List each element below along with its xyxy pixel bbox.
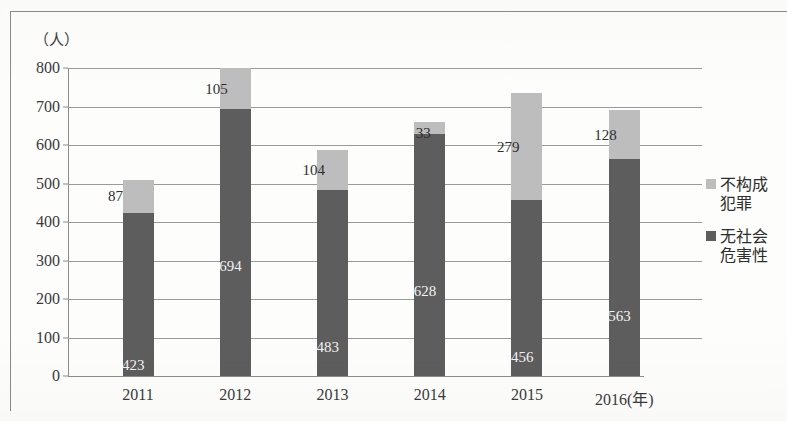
x-tick-label: 2013 bbox=[316, 386, 348, 404]
bar-segment-dark[interactable] bbox=[123, 213, 154, 376]
gridline bbox=[68, 338, 702, 339]
bar-segment-light[interactable] bbox=[123, 180, 154, 213]
legend-swatch-icon bbox=[706, 231, 716, 241]
x-tick-label: 2014 bbox=[414, 386, 446, 404]
bar-column[interactable] bbox=[220, 68, 251, 376]
bar-value-label-light: 87 bbox=[108, 189, 123, 204]
gridline bbox=[68, 107, 702, 108]
gridline bbox=[68, 145, 702, 146]
x-tick-label: 2015 bbox=[511, 386, 543, 404]
bar-column[interactable] bbox=[123, 180, 154, 376]
gridline bbox=[68, 222, 702, 223]
y-tick-label: 700 bbox=[8, 98, 60, 116]
gridline bbox=[68, 376, 644, 377]
legend-entry[interactable]: 不构成犯罪 bbox=[706, 176, 784, 214]
bar-value-label-dark: 483 bbox=[316, 340, 339, 355]
legend-label-line2: 危害性 bbox=[720, 247, 784, 266]
y-tick-label: 0 bbox=[8, 367, 60, 385]
bar-value-label-light: 105 bbox=[205, 82, 228, 97]
bar-value-label-light: 33 bbox=[416, 126, 431, 141]
y-tick-label: 200 bbox=[8, 290, 60, 308]
chart-legend: 不构成犯罪无社会危害性 bbox=[706, 176, 784, 280]
bar-value-label-dark: 694 bbox=[219, 259, 242, 274]
y-tick-label: 300 bbox=[8, 252, 60, 270]
legend-label: 不构成 bbox=[720, 176, 768, 193]
bar-column[interactable] bbox=[511, 93, 542, 376]
gridline bbox=[68, 261, 702, 262]
plot-area: 4238769410548310462833456279563128 bbox=[68, 68, 702, 376]
bar-value-label-dark: 456 bbox=[511, 350, 534, 365]
gridline bbox=[68, 68, 702, 69]
chart-screenshot: （人） 0100200300400500600700800 4238769410… bbox=[0, 0, 787, 421]
bar-value-label-light: 128 bbox=[594, 128, 617, 143]
bar-value-label-dark: 563 bbox=[608, 309, 631, 324]
y-tick-label: 600 bbox=[8, 136, 60, 154]
y-tick-label: 400 bbox=[8, 213, 60, 231]
legend-label-line2: 犯罪 bbox=[720, 195, 784, 214]
legend-swatch-icon bbox=[706, 179, 716, 189]
y-tick-label: 800 bbox=[8, 59, 60, 77]
bar-segment-dark[interactable] bbox=[220, 109, 251, 376]
bar-value-label-light: 104 bbox=[302, 163, 325, 178]
bar-segment-dark[interactable] bbox=[609, 159, 640, 376]
x-tick-label: 2016(年) bbox=[595, 386, 654, 410]
bar-value-label-dark: 423 bbox=[122, 358, 145, 373]
bar-column[interactable] bbox=[609, 110, 640, 376]
bar-column[interactable] bbox=[414, 122, 445, 376]
x-tick-label: 2011 bbox=[122, 386, 153, 404]
legend-entry[interactable]: 无社会危害性 bbox=[706, 228, 784, 266]
bar-value-label-dark: 628 bbox=[414, 284, 437, 299]
gridline bbox=[68, 299, 702, 300]
y-tick-label: 100 bbox=[8, 329, 60, 347]
bar-value-label-light: 279 bbox=[497, 140, 520, 155]
bar-segment-dark[interactable] bbox=[414, 134, 445, 376]
legend-label: 无社会 bbox=[720, 228, 768, 245]
gridline bbox=[68, 184, 702, 185]
x-tick-label: 2012 bbox=[219, 386, 251, 404]
y-tick-label: 500 bbox=[8, 175, 60, 193]
